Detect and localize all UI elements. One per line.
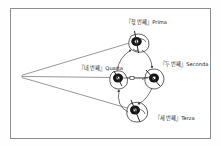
figure-terza <box>127 100 148 122</box>
figure-prima <box>129 31 149 53</box>
sight-lines <box>22 41 150 110</box>
label-seconda: 『두 번째』Seconda <box>160 61 208 67</box>
quarta-hilt <box>130 76 134 79</box>
figure-seconda <box>142 69 164 89</box>
guard-positions-diagram <box>0 0 221 146</box>
label-terza: 『세 번째』Terza <box>155 115 195 121</box>
arrow-prima-to-seconda <box>142 50 152 68</box>
arrow-seconda-to-terza <box>138 88 152 104</box>
label-quarta: 『네 번째』Quarta <box>79 65 123 71</box>
arrow-terza-to-quarta <box>118 90 128 112</box>
label-prima: 『찫 번째』Prima <box>126 19 167 25</box>
screenshot-root: 『찫 번째』Prima 『두 번째』Seconda 『네 번째』Quarta 『… <box>0 0 221 146</box>
